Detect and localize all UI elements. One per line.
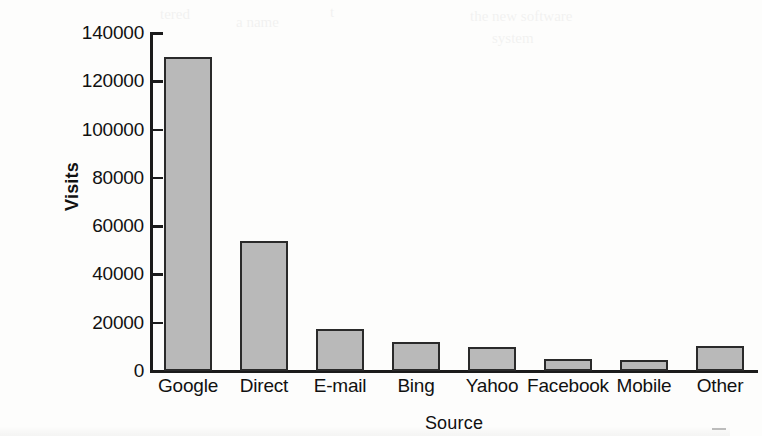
bar-e-mail [316,329,364,371]
bar-google [164,57,212,371]
bar-mobile [620,360,668,371]
bar-direct [240,241,288,371]
y-axis-tick-label: 0 [52,361,144,380]
bars-layer: GoogleDirectE-mailBingYahooFacebookMobil… [150,16,758,372]
y-axis-tick-label: 40000 [52,264,144,283]
bar-other [696,346,744,371]
x-axis-title: Source [150,413,758,434]
bar-chart: 140000120000100000800006000040000200000 … [40,16,762,436]
y-axis-tick-label: 20000 [52,313,144,332]
x-axis-category-label-other: Other [674,376,762,395]
bar-yahoo [468,347,516,371]
y-axis-tick-label: 120000 [52,71,144,90]
y-axis-tick-label: 140000 [52,23,144,42]
scan-corner-mark [712,428,726,430]
bar-facebook [544,359,592,371]
bar-bing [392,342,440,371]
y-axis-title: Visits [62,137,83,237]
